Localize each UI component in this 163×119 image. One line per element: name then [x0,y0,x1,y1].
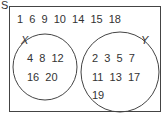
universal-set-label: S [1,0,8,11]
set-y-row3: 19 [92,90,104,101]
set-x-row1: 4 8 12 [27,53,64,64]
set-y-row1: 2 3 5 7 [92,53,135,64]
outside-elements: 1 6 9 10 14 15 18 [17,14,121,25]
set-x-row2: 16 20 [27,72,58,83]
set-x-label: X [21,35,28,46]
set-y-label: Y [141,35,148,46]
set-y-row2: 11 13 17 [92,72,140,83]
